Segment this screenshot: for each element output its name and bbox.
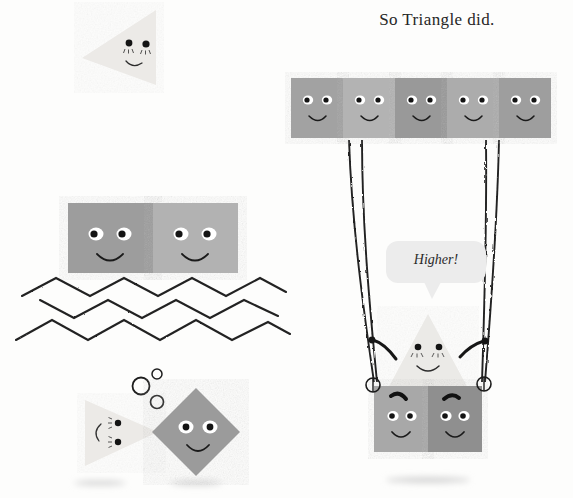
- rope-ring-right: [477, 377, 491, 391]
- flag-triangle-eye-left: [126, 40, 133, 47]
- bubbles-group: [133, 369, 164, 409]
- underwater-diamond-character: [152, 388, 240, 476]
- seat-square-left: [374, 386, 428, 452]
- illustration-page: So Triangle did. Higher!: [0, 0, 573, 498]
- swing-triangle-character: [369, 314, 489, 392]
- water-row-1: [22, 278, 286, 296]
- speech-bubble: [386, 241, 486, 299]
- shadow-under-swing: [386, 477, 470, 483]
- scene-svg: [0, 0, 573, 498]
- rope-ring-left: [366, 378, 380, 392]
- beam-square-4: [447, 78, 499, 138]
- shadow-under-triangle: [74, 480, 126, 485]
- flag-triangle-eye-right: [142, 40, 149, 47]
- zigzag-water: [16, 278, 290, 340]
- seat-square-right: [428, 386, 482, 452]
- shadow-under-diamond: [170, 480, 222, 485]
- beam-square-3: [395, 78, 447, 138]
- rope-left-outer: [349, 140, 374, 382]
- swing-triangle-eye-right: [436, 344, 443, 351]
- beam-square-2: [343, 78, 395, 138]
- flag-triangle-character: [82, 10, 156, 85]
- swing-triangle-arm-left: [373, 340, 396, 359]
- raft-square-left: [68, 203, 153, 273]
- swing-triangle-eye-left: [415, 344, 422, 351]
- bubble-small-top: [152, 369, 162, 379]
- water-row-3: [16, 320, 290, 340]
- underwater-triangle-character: [85, 400, 158, 466]
- beam-square-1: [291, 78, 343, 138]
- page-title: So Triangle did.: [312, 10, 562, 30]
- bubble-medium: [151, 396, 164, 409]
- bubble-large: [133, 378, 150, 395]
- uw-triangle-eye-top: [115, 420, 121, 426]
- swing-triangle-arm-right: [460, 341, 484, 357]
- raft-square-right: [153, 203, 238, 273]
- uw-triangle-eye-bot: [115, 439, 121, 445]
- beam-square-5: [499, 78, 551, 138]
- water-row-2: [40, 300, 278, 318]
- speech-bubble-label: Higher!: [396, 252, 476, 268]
